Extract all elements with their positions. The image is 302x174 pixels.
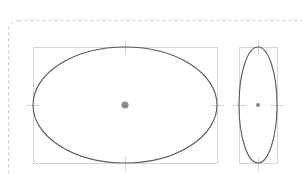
canvas-background <box>0 0 302 174</box>
vector-scene <box>0 0 302 174</box>
drawing-canvas[interactable] <box>0 0 302 174</box>
center-point-handle[interactable] <box>256 103 260 107</box>
center-point-handle[interactable] <box>121 101 128 108</box>
